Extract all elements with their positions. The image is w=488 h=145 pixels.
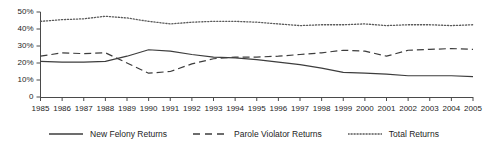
x-axis-ticks <box>41 97 474 101</box>
legend-swatch-dotted-icon <box>348 129 382 139</box>
legend-entry-1[interactable]: Parole Violator Returns <box>193 129 322 139</box>
y-axis-tick-label: 0 <box>29 93 33 101</box>
y-axis-tick-label: 30% <box>17 42 33 50</box>
y-axis-tick-label: 20% <box>17 59 33 67</box>
chart-plot-area <box>0 0 488 145</box>
legend-label: Total Returns <box>389 130 439 139</box>
legend-swatch-solid-icon <box>49 129 83 139</box>
chart-series-line-0 <box>41 50 474 77</box>
legend-label: Parole Violator Returns <box>234 130 322 139</box>
y-axis-ticks <box>37 12 41 97</box>
chart-series-group <box>41 16 474 76</box>
y-axis-tick-label: 40% <box>17 25 33 33</box>
chart-series-line-2 <box>41 16 474 25</box>
y-axis-tick-label: 10% <box>17 76 33 84</box>
chart-legend: New Felony ReturnsParole Violator Return… <box>0 126 488 142</box>
legend-label: New Felony Returns <box>90 130 167 139</box>
legend-swatch-dashed-icon <box>193 129 227 139</box>
chart-container: 010%20%30%40%50% 19851986198719881989199… <box>0 0 488 145</box>
legend-entry-2[interactable]: Total Returns <box>348 129 439 139</box>
y-axis-tick-label: 50% <box>17 8 33 16</box>
legend-entry-0[interactable]: New Felony Returns <box>49 129 167 139</box>
x-axis-tick-label: 2005 <box>460 105 486 113</box>
